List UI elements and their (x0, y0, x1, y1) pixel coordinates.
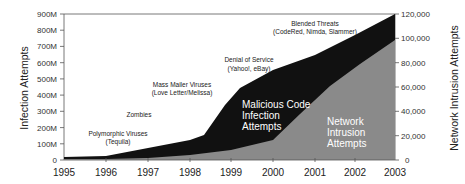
svg-text:Infection: Infection (242, 110, 280, 121)
svg-text:1998: 1998 (179, 167, 202, 178)
annotation-dos: Denial of Service (224, 56, 274, 63)
svg-text:500M: 500M (37, 75, 57, 84)
annotation-dos-sub: (Yahoo!, eBay) (228, 65, 271, 73)
svg-text:300M: 300M (37, 107, 57, 116)
svg-text:Network: Network (327, 116, 365, 127)
y-right-title: Network Intrusion Attempts (448, 25, 460, 150)
annotation-mass-mailer: Mass Mailer Viruses (153, 81, 212, 88)
y-left-title: Infection Attempts (18, 46, 30, 129)
svg-text:900M: 900M (37, 10, 57, 19)
svg-text:1996: 1996 (95, 167, 118, 178)
annotation-blended-sub: (CodeRed, Nimda, Slammer) (273, 28, 357, 36)
svg-text:Attempts: Attempts (327, 138, 366, 149)
svg-text:800M: 800M (37, 26, 57, 35)
svg-text:700M: 700M (37, 42, 57, 51)
svg-text:2000: 2000 (262, 167, 285, 178)
svg-text:400M: 400M (37, 91, 57, 100)
svg-text:2003: 2003 (384, 167, 407, 178)
svg-text:200M: 200M (37, 124, 57, 133)
left-tick-labels: 0 100M 200M 300M 400M 500M 600M 700M 800… (37, 10, 58, 165)
annotation-blended: Blended Threats (291, 20, 339, 27)
annotation-mass-mailer-sub: (Love Letter/Melissa) (152, 89, 213, 97)
svg-text:120,000: 120,000 (401, 10, 430, 19)
svg-text:Malicious Code: Malicious Code (242, 99, 311, 110)
annotation-zombies: Zombies (127, 111, 153, 118)
annotation-polymorphic-sub: (Tequila) (106, 138, 131, 146)
svg-text:600M: 600M (37, 59, 57, 68)
svg-text:60,000: 60,000 (401, 83, 426, 92)
threat-evolution-chart: 0 100M 200M 300M 400M 500M 600M 700M 800… (0, 0, 465, 184)
svg-text:2002: 2002 (344, 167, 367, 178)
right-tick-labels: 0 20,000 40,000 60,000 80,000 100,000 12… (401, 10, 430, 165)
svg-text:0: 0 (53, 156, 58, 165)
right-ticks (395, 14, 399, 160)
svg-text:40,000: 40,000 (401, 107, 426, 116)
svg-text:Intrusion: Intrusion (327, 127, 365, 138)
svg-text:0: 0 (405, 156, 410, 165)
x-tick-labels: 1995 1996 1997 1998 1999 2000 2001 2002 … (53, 167, 407, 178)
annotation-polymorphic: Polymorphic Viruses (88, 130, 148, 138)
svg-text:1995: 1995 (53, 167, 76, 178)
svg-text:20,000: 20,000 (401, 132, 426, 141)
network-area-label: Network Intrusion Attempts (327, 116, 366, 149)
svg-text:100,000: 100,000 (401, 34, 430, 43)
svg-text:80,000: 80,000 (401, 59, 426, 68)
svg-text:1999: 1999 (220, 167, 243, 178)
svg-text:1997: 1997 (137, 167, 160, 178)
left-ticks (60, 14, 64, 160)
svg-text:100M: 100M (37, 140, 57, 149)
svg-text:Attempts: Attempts (242, 121, 281, 132)
svg-text:2001: 2001 (304, 167, 327, 178)
